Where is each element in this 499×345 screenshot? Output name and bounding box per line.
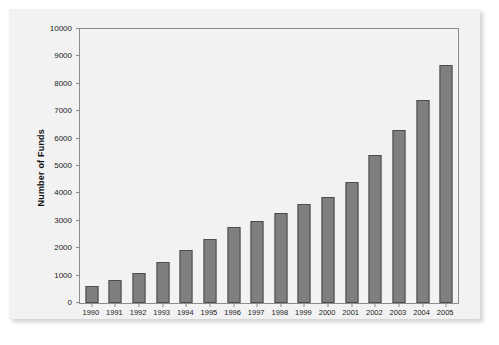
chart-bar[interactable] — [156, 262, 169, 303]
x-tick-label: 1995 — [201, 308, 218, 317]
x-tick-label: 2002 — [366, 308, 383, 317]
chart-bar[interactable] — [227, 227, 240, 303]
x-tick-label: 1990 — [82, 308, 99, 317]
x-tick-label: 1994 — [177, 308, 194, 317]
x-tick-label: 1991 — [106, 308, 123, 317]
bar-slot — [175, 29, 199, 303]
x-tick-mark — [233, 303, 234, 307]
bar-slot — [104, 29, 128, 303]
x-tick-mark — [446, 303, 447, 307]
x-tick-label: 1997 — [248, 308, 265, 317]
x-tick-mark — [280, 303, 281, 307]
x-tick-label: 1993 — [153, 308, 170, 317]
x-tick-label: 1992 — [130, 308, 147, 317]
chart-bar[interactable] — [133, 273, 146, 303]
plot-area: 0100020003000400050006000700080009000100… — [80, 29, 458, 303]
bar-slot — [245, 29, 269, 303]
plot-frame: 0100020003000400050006000700080009000100… — [79, 28, 459, 304]
x-tick-label: 2005 — [437, 308, 454, 317]
y-tick-label: 8000 — [54, 78, 72, 89]
x-tick-label: 1996 — [224, 308, 241, 317]
chart-bar[interactable] — [298, 204, 311, 303]
bar-slot — [80, 29, 104, 303]
x-tick-label: 2003 — [390, 308, 407, 317]
bar-slot — [364, 29, 388, 303]
bar-slot — [387, 29, 411, 303]
bar-slot — [269, 29, 293, 303]
y-axis-title: Number of Funds — [36, 129, 46, 207]
bar-slot — [411, 29, 435, 303]
x-tick-mark — [398, 303, 399, 307]
y-tick-label: 2000 — [54, 242, 72, 253]
bar-slot — [434, 29, 458, 303]
x-tick-mark — [375, 303, 376, 307]
bar-slot — [340, 29, 364, 303]
x-tick-mark — [257, 303, 258, 307]
x-tick-mark — [186, 303, 187, 307]
x-tick-mark — [115, 303, 116, 307]
x-tick-mark — [304, 303, 305, 307]
x-tick-mark — [209, 303, 210, 307]
chart-bar[interactable] — [392, 130, 405, 303]
bar-slot — [127, 29, 151, 303]
x-tick-mark — [422, 303, 423, 307]
chart-bar[interactable] — [85, 286, 98, 303]
chart-bar[interactable] — [251, 221, 264, 303]
y-tick-label: 6000 — [54, 133, 72, 144]
y-tick-label: 5000 — [54, 160, 72, 171]
chart-bar[interactable] — [416, 100, 429, 303]
x-tick-mark — [328, 303, 329, 307]
x-tick-label: 2004 — [413, 308, 430, 317]
y-tick-label: 7000 — [54, 105, 72, 116]
x-tick-mark — [139, 303, 140, 307]
chart-bar[interactable] — [345, 182, 358, 303]
chart-bar[interactable] — [369, 155, 382, 303]
y-tick-label: 3000 — [54, 215, 72, 226]
x-tick-label: 2000 — [319, 308, 336, 317]
x-tick-label: 1998 — [271, 308, 288, 317]
bar-slot — [293, 29, 317, 303]
chart-bar[interactable] — [440, 65, 453, 303]
x-tick-mark — [351, 303, 352, 307]
bar-slot — [316, 29, 340, 303]
y-tick-label: 1000 — [54, 270, 72, 281]
x-tick-label: 1999 — [295, 308, 312, 317]
figure-panel: Number of Funds 010002000300040005000600… — [9, 9, 480, 319]
chart-bar[interactable] — [109, 280, 122, 303]
y-tick-label: 4000 — [54, 187, 72, 198]
chart-bar[interactable] — [274, 213, 287, 303]
x-tick-label: 2001 — [342, 308, 359, 317]
chart-bar[interactable] — [180, 250, 193, 303]
y-tick-label: 10000 — [50, 23, 72, 34]
bar-slot — [151, 29, 175, 303]
chart-bar[interactable] — [322, 197, 335, 303]
y-tick-label: 0 — [68, 297, 72, 308]
y-tick-label: 9000 — [54, 50, 72, 61]
chart-bar[interactable] — [203, 239, 216, 303]
bar-slot — [198, 29, 222, 303]
bar-slot — [222, 29, 246, 303]
x-tick-mark — [91, 303, 92, 307]
x-tick-mark — [162, 303, 163, 307]
